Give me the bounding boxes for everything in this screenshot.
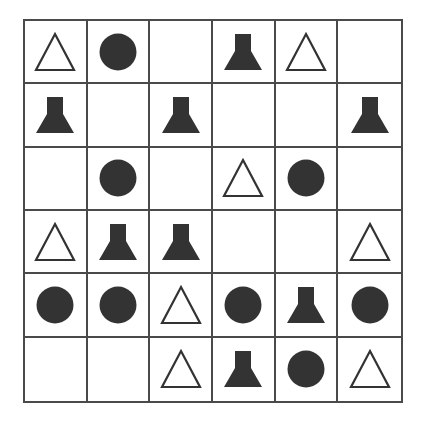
grid-cell-r3-c4 [213, 148, 276, 211]
grid-cell-r6-c4 [213, 338, 276, 401]
grid-cell-r6-c2 [88, 338, 151, 401]
grid-cell-r1-c2 [88, 21, 151, 84]
grid-cell-r5-c2 [88, 274, 151, 337]
grid-cell-r4-c4 [213, 211, 276, 274]
grid-cell-r3-c5 [276, 148, 339, 211]
grid-cell-r1-c3 [150, 21, 213, 84]
flask-icon [33, 93, 77, 137]
grid-cell-r2-c5 [276, 84, 339, 147]
grid-cell-r4-c2 [88, 211, 151, 274]
grid-cell-r5-c1 [25, 274, 88, 337]
grid-cell-r5-c6 [338, 274, 401, 337]
grid-cell-r1-c5 [276, 21, 339, 84]
grid-cell-r6-c6 [338, 338, 401, 401]
grid-cell-r3-c2 [88, 148, 151, 211]
triangle-icon [284, 30, 328, 74]
circle-icon [284, 347, 328, 391]
circle-icon [96, 156, 140, 200]
grid-cell-r5-c4 [213, 274, 276, 337]
grid-cell-r2-c3 [150, 84, 213, 147]
flask-icon [159, 93, 203, 137]
grid-cell-r4-c5 [276, 211, 339, 274]
flask-icon [221, 30, 265, 74]
flask-icon [96, 220, 140, 264]
grid-cell-r2-c6 [338, 84, 401, 147]
circle-icon [96, 30, 140, 74]
flask-icon [348, 93, 392, 137]
grid-cell-r5-c5 [276, 274, 339, 337]
grid-cell-r4-c6 [338, 211, 401, 274]
triangle-icon [159, 347, 203, 391]
grid-cell-r1-c1 [25, 21, 88, 84]
circle-icon [96, 283, 140, 327]
circle-icon [348, 283, 392, 327]
grid-cell-r4-c3 [150, 211, 213, 274]
grid-cell-r2-c4 [213, 84, 276, 147]
grid-cell-r2-c1 [25, 84, 88, 147]
grid-cell-r4-c1 [25, 211, 88, 274]
circle-icon [33, 283, 77, 327]
triangle-icon [159, 283, 203, 327]
triangle-icon [221, 156, 265, 200]
flask-icon [221, 347, 265, 391]
grid-cell-r3-c6 [338, 148, 401, 211]
circle-icon [284, 156, 328, 200]
grid-cell-r1-c4 [213, 21, 276, 84]
grid-cell-r6-c3 [150, 338, 213, 401]
grid-cell-r1-c6 [338, 21, 401, 84]
flask-icon [284, 283, 328, 327]
shape-grid [23, 19, 403, 403]
triangle-icon [33, 220, 77, 264]
circle-icon [221, 283, 265, 327]
grid-cell-r6-c5 [276, 338, 339, 401]
triangle-icon [33, 30, 77, 74]
grid-cell-r5-c3 [150, 274, 213, 337]
triangle-icon [348, 220, 392, 264]
triangle-icon [348, 347, 392, 391]
grid-cell-r3-c1 [25, 148, 88, 211]
grid-cell-r3-c3 [150, 148, 213, 211]
flask-icon [159, 220, 203, 264]
grid-cell-r6-c1 [25, 338, 88, 401]
grid-cell-r2-c2 [88, 84, 151, 147]
